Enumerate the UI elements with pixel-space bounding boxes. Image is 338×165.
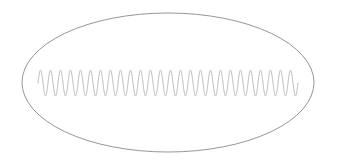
figure-svg xyxy=(0,0,338,165)
diagram-canvas xyxy=(0,0,338,165)
waveform-path xyxy=(38,70,298,96)
